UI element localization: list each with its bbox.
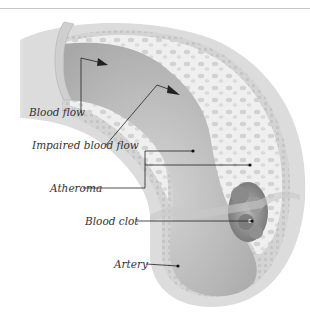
label-atheroma: Atheroma [50,182,102,194]
atheroma-dot-2 [248,163,251,166]
artery-illustration [0,0,310,313]
blood-clot-dot [250,219,253,222]
label-artery: Artery [114,258,148,270]
label-blood-flow: Blood flow [29,106,85,118]
atheroma-dot-1 [191,149,194,152]
artery-diagram: Blood flow Impaired blood flow Atheroma … [0,0,310,313]
label-blood-clot: Blood clot [85,215,139,227]
label-impaired-blood-flow: Impaired blood flow [32,139,139,151]
artery-dot [176,264,179,267]
